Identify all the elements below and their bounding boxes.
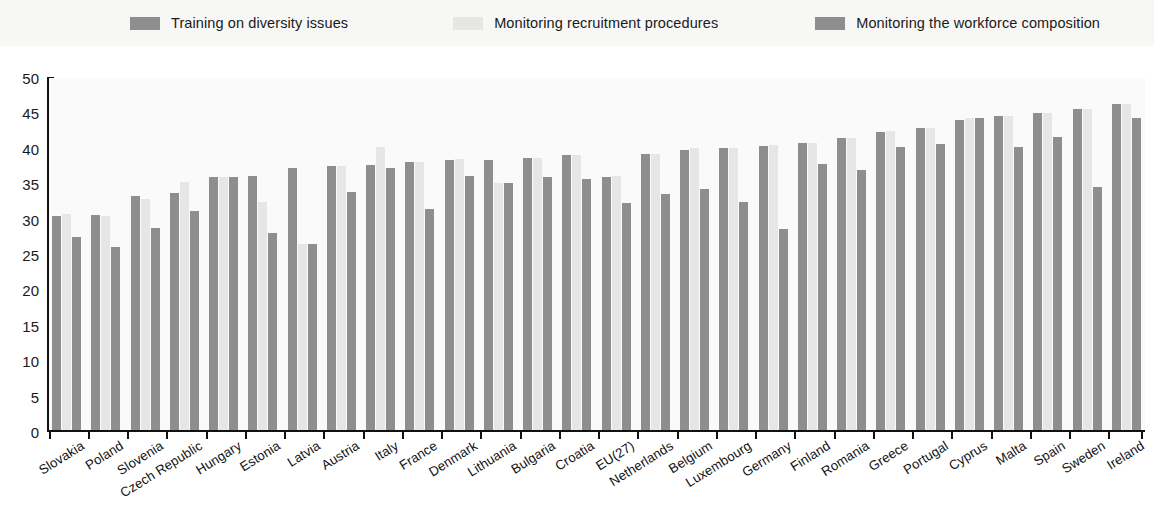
bar-0 [91, 215, 100, 430]
bar-0 [1033, 113, 1042, 430]
bar-2 [818, 164, 827, 430]
bar-2 [582, 179, 591, 430]
bar-1 [729, 148, 738, 430]
bar-group [994, 78, 1024, 430]
bar-0 [916, 128, 925, 430]
bar-2 [857, 170, 866, 430]
bar-2 [896, 147, 905, 430]
bar-1 [965, 118, 974, 430]
bar-1 [180, 182, 189, 430]
bar-0 [52, 216, 61, 430]
bar-0 [680, 150, 689, 430]
bar-0 [602, 177, 611, 430]
bar-group [1112, 78, 1142, 430]
bar-group [523, 78, 553, 430]
bar-1 [219, 177, 228, 430]
bar-2 [936, 144, 945, 430]
bar-1 [298, 244, 307, 430]
x-axis-label-croatia: Croatia [553, 438, 598, 474]
bar-2 [975, 118, 984, 430]
x-axis-label-latvia: Latvia [284, 438, 322, 470]
y-axis: 50454035302520151050 [0, 78, 47, 432]
bar-2 [700, 189, 709, 430]
bar-2 [1014, 147, 1023, 430]
bar-group [876, 78, 906, 430]
legend-swatch-icon-1 [453, 17, 483, 30]
bar-group [719, 78, 749, 430]
bar-2 [190, 211, 199, 430]
bar-0 [641, 154, 650, 430]
bar-group [759, 78, 789, 430]
bar-2 [465, 176, 474, 430]
bar-group [798, 78, 828, 430]
y-axis-tick-label: 40 [9, 140, 39, 157]
bar-group [680, 78, 710, 430]
legend-label-2: Monitoring the workforce composition [856, 15, 1100, 31]
x-axis-label-sweden: Sweden [1059, 438, 1108, 476]
bar-group [445, 78, 475, 430]
bar-1 [533, 158, 542, 430]
bar-1 [847, 138, 856, 430]
bar-0 [288, 168, 297, 430]
bar-1 [690, 148, 699, 430]
legend-label-0: Training on diversity issues [171, 15, 348, 31]
legend-entry-0[interactable]: Training on diversity issues [130, 15, 348, 31]
bar-group [131, 78, 161, 430]
bar-1 [1004, 116, 1013, 430]
y-axis-tick-label: 45 [9, 105, 39, 122]
bar-0 [131, 196, 140, 430]
bar-1 [651, 154, 660, 430]
bar-group [837, 78, 867, 430]
bar-0 [759, 146, 768, 430]
bar-0 [366, 165, 375, 431]
bar-2 [425, 209, 434, 430]
bar-0 [837, 138, 846, 430]
bar-2 [1132, 118, 1141, 430]
bar-2 [1053, 137, 1062, 430]
bar-1 [376, 147, 385, 430]
y-axis-tick-label: 35 [9, 176, 39, 193]
y-axis-tick-label: 30 [9, 211, 39, 228]
bar-0 [484, 160, 493, 430]
bar-2 [543, 177, 552, 430]
plot-area [47, 78, 1145, 432]
bar-1 [1083, 109, 1092, 430]
bar-0 [876, 132, 885, 430]
x-axis-label-austria: Austria [318, 438, 361, 473]
bar-1 [808, 143, 817, 430]
bar-group [366, 78, 396, 430]
legend-entry-2[interactable]: Monitoring the workforce composition [815, 15, 1100, 31]
bar-1 [926, 128, 935, 430]
bar-group [916, 78, 946, 430]
bar-1 [769, 145, 778, 430]
x-axis-label-cyprus: Cyprus [946, 438, 990, 473]
bar-0 [445, 160, 454, 430]
x-axis-labels: SlovakiaPolandSloveniaCzech RepublicHung… [0, 432, 1154, 517]
bar-group [327, 78, 357, 430]
bar-group [170, 78, 200, 430]
bar-1 [572, 155, 581, 430]
chart-figure: Training on diversity issuesMonitoring r… [0, 0, 1154, 517]
x-axis-label-estonia: Estonia [237, 438, 283, 474]
bar-2 [268, 233, 277, 430]
legend-entry-1[interactable]: Monitoring recruitment procedures [453, 15, 718, 31]
bar-2 [779, 229, 788, 430]
bar-group [641, 78, 671, 430]
bar-1 [886, 131, 895, 430]
bar-group [1033, 78, 1063, 430]
bar-0 [523, 158, 532, 430]
bar-1 [141, 199, 150, 430]
bar-0 [1112, 104, 1121, 430]
bar-group [602, 78, 632, 430]
bar-group [209, 78, 239, 430]
bar-0 [955, 120, 964, 430]
bar-2 [739, 202, 748, 430]
bar-group [955, 78, 985, 430]
bar-0 [405, 162, 414, 430]
bar-0 [562, 155, 571, 430]
bar-2 [504, 183, 513, 430]
bar-group [248, 78, 278, 430]
y-axis-tick-label: 10 [9, 353, 39, 370]
bar-0 [719, 148, 728, 430]
x-axis-label-malta: Malta [993, 438, 1029, 468]
